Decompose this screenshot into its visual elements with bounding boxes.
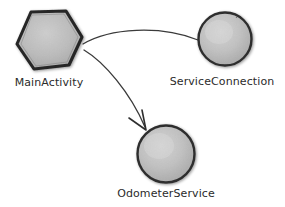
node-label-main-activity: MainActivity — [15, 76, 84, 89]
node-layer: MainActivity ServiceConnection Odomete — [15, 11, 275, 200]
edge-main-to-odometerservice[interactable] — [84, 50, 146, 130]
node-main-activity[interactable]: MainActivity — [15, 11, 84, 89]
service-connection-circle-texture — [199, 13, 251, 65]
edge-main-to-serviceconnection[interactable] — [83, 30, 198, 44]
edge-main-to-serviceconnection-path — [83, 30, 198, 44]
arrowhead-icon — [129, 110, 146, 130]
edge-main-to-odometerservice-path — [84, 50, 145, 127]
odometer-service-circle-texture — [138, 126, 194, 182]
component-diagram: MainActivity ServiceConnection Odomete — [0, 0, 285, 207]
node-odometer-service[interactable]: OdometerService — [117, 126, 215, 201]
node-label-odometer-service: OdometerService — [117, 187, 215, 200]
node-service-connection[interactable]: ServiceConnection — [170, 13, 275, 89]
node-label-service-connection: ServiceConnection — [170, 75, 275, 88]
diagram-canvas-container: MainActivity ServiceConnection Odomete — [0, 0, 285, 207]
